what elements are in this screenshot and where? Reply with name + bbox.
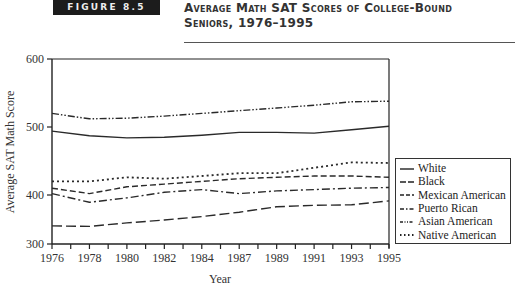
y-tick-label: 600	[26, 52, 44, 66]
y-axis-label: Average SAT Math Score	[3, 91, 17, 214]
series-line-native-american	[52, 162, 389, 181]
y-tick-label: 300	[26, 237, 44, 251]
x-tick-label: 1980	[115, 251, 139, 265]
x-tick-label: 1984	[190, 251, 214, 265]
legend-label: White	[418, 162, 446, 175]
x-tick-label: 1993	[340, 251, 364, 265]
series-line-mexican-american	[52, 176, 389, 194]
legend-label: Asian American	[418, 215, 492, 228]
x-tick-label: 1987	[227, 251, 251, 265]
legend-swatch-icon	[400, 179, 414, 185]
x-axis-label: Year	[209, 272, 231, 286]
legend-label: Black	[418, 175, 445, 188]
y-tick-label: 400	[26, 188, 44, 202]
x-tick-label: 1982	[152, 251, 176, 265]
legend-swatch-icon	[400, 206, 414, 212]
x-tick-label: 1991	[302, 251, 326, 265]
chart-legend: WhiteBlackMexican AmericanPuerto RicanAs…	[395, 158, 511, 244]
legend-item: Black	[400, 175, 510, 188]
series-lines	[52, 101, 389, 226]
legend-swatch-icon	[400, 166, 414, 172]
legend-item: Puerto Rican	[400, 202, 510, 215]
legend-item: Mexican American	[400, 189, 510, 202]
y-tick-label: 500	[26, 120, 44, 134]
x-tick-label: 1978	[77, 251, 101, 265]
line-chart: 3004005006001976197819801982198419871989…	[0, 0, 518, 288]
x-tick-label: 1989	[265, 251, 289, 265]
legend-swatch-icon	[400, 192, 414, 198]
axes: 3004005006001976197819801982198419871989…	[26, 52, 401, 265]
series-line-white	[52, 126, 389, 138]
legend-label: Puerto Rican	[418, 202, 478, 215]
legend-label: Mexican American	[418, 189, 506, 202]
legend-swatch-icon	[400, 232, 414, 238]
series-line-asian-american	[52, 101, 389, 119]
series-line-puerto-rican	[52, 188, 389, 203]
legend-item: Asian American	[400, 215, 510, 228]
legend-item: White	[400, 162, 510, 175]
legend-label: Native American	[418, 229, 496, 242]
x-tick-label: 1976	[40, 251, 64, 265]
x-tick-label: 1995	[377, 251, 401, 265]
legend-swatch-icon	[400, 219, 414, 225]
series-line-black	[52, 201, 389, 227]
legend-item: Native American	[400, 228, 510, 241]
